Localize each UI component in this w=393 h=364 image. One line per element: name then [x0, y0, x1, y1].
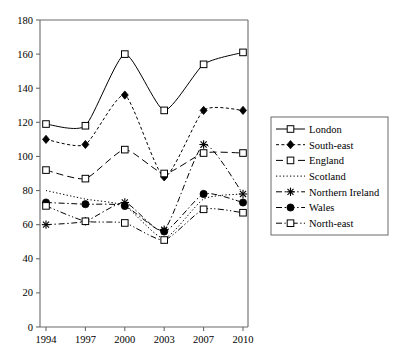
series-scotland — [46, 191, 243, 239]
marker-open-square — [122, 146, 129, 153]
marker-cross-star — [239, 190, 247, 198]
series-group — [42, 49, 247, 243]
y-tick-label: 60 — [23, 219, 34, 230]
y-tick-label: 120 — [17, 117, 33, 128]
marker-open-square — [240, 150, 247, 157]
series-line — [46, 150, 243, 179]
marker-open-square — [200, 150, 207, 157]
marker-open-square — [122, 51, 129, 58]
y-tick-label: 180 — [17, 15, 33, 26]
series-england — [43, 146, 247, 182]
x-tick-label: 2000 — [114, 334, 135, 345]
marker-open-square — [122, 220, 129, 227]
marker-filled-circle — [200, 190, 207, 197]
marker-filled-circle — [287, 204, 294, 211]
line-chart: 0204060801001201401601801994199720002003… — [0, 0, 393, 364]
series-line — [46, 52, 243, 128]
y-tick-label: 20 — [23, 287, 34, 298]
legend-label: Scotland — [309, 171, 346, 182]
legend-label: North-east — [309, 218, 353, 229]
y-tick-label: 80 — [23, 185, 34, 196]
marker-filled-diamond — [43, 135, 50, 143]
legend-label: South-east — [309, 140, 353, 151]
legend-label: England — [309, 155, 345, 166]
marker-filled-circle — [82, 201, 89, 208]
marker-open-square — [287, 157, 294, 164]
x-tick-group: 199419972000200320072010 — [36, 327, 254, 345]
x-tick-label: 2007 — [193, 334, 214, 345]
marker-cross-star — [286, 188, 294, 196]
marker-cross-star — [42, 220, 50, 228]
marker-open-square — [161, 237, 168, 244]
marker-open-square — [82, 122, 89, 129]
marker-open-square — [287, 126, 294, 133]
series-line — [46, 191, 243, 239]
marker-filled-diamond — [240, 106, 247, 114]
x-tick-label: 2003 — [154, 334, 175, 345]
marker-open-square — [43, 121, 50, 128]
series-line — [46, 193, 243, 231]
series-wales — [42, 190, 246, 235]
x-tick-label: 2010 — [233, 334, 254, 345]
marker-open-square — [200, 206, 207, 213]
marker-open-square — [161, 107, 168, 114]
y-tick-group: 020406080100120140160180 — [17, 15, 40, 333]
y-tick-label: 40 — [23, 253, 34, 264]
marker-open-square — [43, 167, 50, 174]
axes — [40, 20, 248, 327]
marker-open-square — [82, 175, 89, 182]
marker-filled-circle — [239, 199, 246, 206]
marker-filled-circle — [121, 202, 128, 209]
marker-open-square — [161, 170, 168, 177]
y-tick-label: 160 — [17, 49, 33, 60]
marker-filled-circle — [161, 228, 168, 235]
series-south-east — [43, 91, 247, 181]
legend-label: Wales — [309, 202, 334, 213]
legend-label: Northern Ireland — [309, 187, 380, 198]
marker-open-square — [43, 203, 50, 210]
x-tick-label: 1994 — [36, 334, 58, 345]
x-tick-label: 1997 — [75, 334, 96, 345]
marker-open-square — [82, 218, 89, 225]
chart-root: 0204060801001201401601801994199720002003… — [0, 0, 393, 364]
series-london — [43, 49, 247, 129]
marker-open-square — [287, 220, 294, 227]
y-tick-label: 140 — [17, 83, 33, 94]
marker-open-square — [240, 209, 247, 216]
marker-open-square — [240, 49, 247, 56]
legend-label: London — [309, 124, 342, 135]
y-tick-label: 0 — [28, 322, 33, 333]
series-line — [46, 95, 243, 177]
legend: LondonSouth-eastEnglandScotlandNorthern … — [271, 117, 388, 235]
y-tick-label: 100 — [17, 151, 33, 162]
marker-cross-star — [199, 140, 207, 148]
marker-open-square — [200, 61, 207, 68]
